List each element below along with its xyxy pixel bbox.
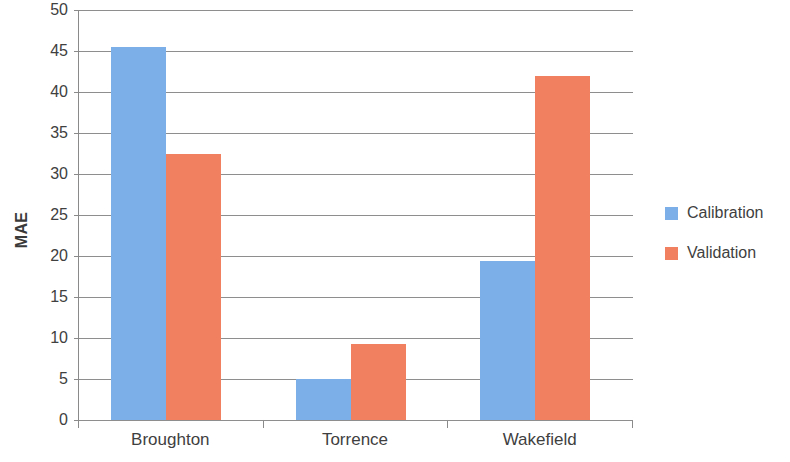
legend-item-calibration[interactable]: Calibration — [665, 193, 790, 233]
y-axis-tick-label: 5 — [34, 371, 68, 387]
y-axis-tick-label: 15 — [34, 289, 68, 305]
y-axis-tick-label: 20 — [34, 248, 68, 264]
bar-group — [448, 10, 633, 420]
x-axis-tickmark — [263, 421, 264, 428]
x-axis-tick-label-wakefield: Wakefield — [447, 430, 632, 450]
legend-swatch-validation — [665, 247, 678, 260]
y-axis-title-label: MAE — [13, 212, 31, 248]
bar-group — [264, 10, 449, 420]
y-axis-tick-label: 25 — [34, 207, 68, 223]
y-axis-tick-label: 0 — [34, 412, 68, 428]
chart-legend: CalibrationValidation — [665, 193, 790, 273]
legend-item-validation[interactable]: Validation — [665, 233, 790, 273]
x-axis-tickmarks — [78, 421, 634, 429]
bar-torrence-calibration[interactable] — [296, 379, 351, 420]
bar-broughton-validation[interactable] — [166, 154, 221, 420]
y-axis-tick-label: 50 — [34, 2, 68, 18]
y-axis-tick-label: 40 — [34, 84, 68, 100]
x-axis-tick-label-torrence: Torrence — [263, 430, 448, 450]
legend-swatch-calibration — [665, 207, 678, 220]
bar-torrence-validation[interactable] — [351, 344, 406, 420]
x-axis-tickmark — [632, 421, 633, 428]
y-axis-tick-label: 10 — [34, 330, 68, 346]
y-axis-tick-labels: 05101520253035404550 — [34, 0, 68, 462]
plot-area — [78, 10, 633, 421]
y-axis-tick-label: 30 — [34, 166, 68, 182]
x-axis-tickmark — [78, 421, 79, 428]
x-axis-tickmark — [447, 421, 448, 428]
y-axis-tick-label: 35 — [34, 125, 68, 141]
legend-label: Validation — [687, 244, 756, 262]
bar-wakefield-calibration[interactable] — [480, 261, 535, 420]
bar-broughton-calibration[interactable] — [111, 47, 166, 420]
bar-chart: MAE 05101520253035404550 BroughtonTorren… — [0, 0, 790, 462]
y-axis-tick-label: 45 — [34, 43, 68, 59]
x-axis-tick-labels: BroughtonTorrenceWakefield — [78, 430, 632, 460]
x-axis-tick-label-broughton: Broughton — [78, 430, 263, 450]
bar-group — [79, 10, 264, 420]
bar-wakefield-validation[interactable] — [535, 76, 590, 420]
bars-layer — [79, 10, 633, 420]
legend-label: Calibration — [687, 204, 763, 222]
